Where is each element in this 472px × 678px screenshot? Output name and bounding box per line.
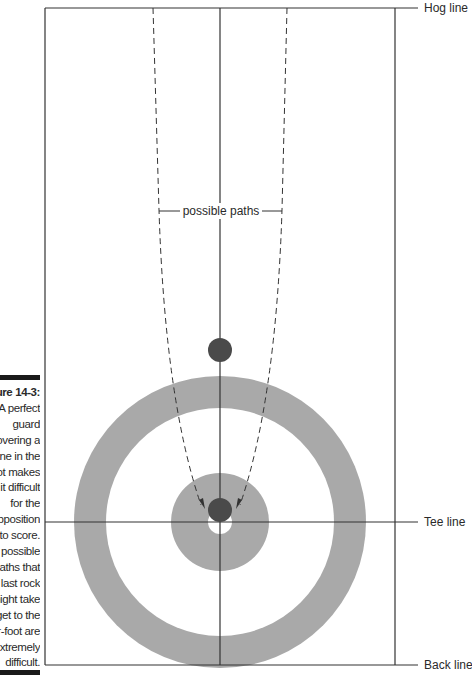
guard-rock [208, 338, 232, 362]
hog-line-label: Hog line [424, 1, 468, 15]
tee-line-label: Tee line [424, 515, 466, 529]
back-line-label: Back line [424, 658, 472, 672]
possible-paths-label: possible paths [183, 204, 260, 218]
curling-sheet-diagram: possible paths Hog line Tee line Back li… [0, 0, 472, 678]
shot-rock [208, 498, 232, 522]
